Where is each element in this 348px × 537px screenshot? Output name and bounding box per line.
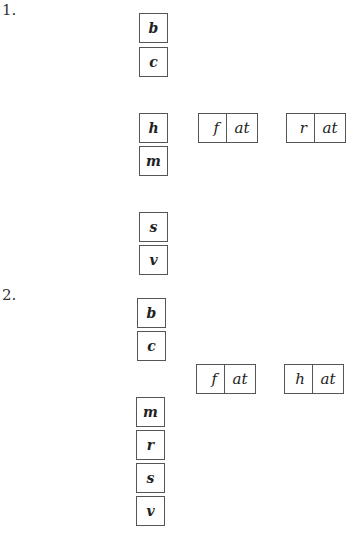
exercise-number: 2.: [2, 286, 16, 304]
letter-tile[interactable]: s: [139, 212, 168, 242]
word-onset: h: [295, 370, 305, 388]
letter-tile[interactable]: c: [137, 331, 166, 361]
letter-tile[interactable]: b: [137, 298, 166, 328]
word-box: h at: [284, 364, 344, 394]
letter-tile[interactable]: s: [136, 463, 165, 493]
word-rime: at: [313, 365, 343, 393]
letter-tile[interactable]: h: [139, 113, 168, 143]
letter-tile[interactable]: v: [136, 496, 165, 526]
letter-tile[interactable]: b: [139, 13, 168, 43]
word-onset: f: [213, 119, 219, 137]
word-onset-slot[interactable]: f: [197, 365, 225, 393]
word-rime: at: [315, 114, 345, 142]
word-rime: at: [225, 365, 255, 393]
word-onset-slot[interactable]: f: [199, 114, 227, 142]
letter-tile[interactable]: r: [136, 430, 165, 460]
word-onset-slot[interactable]: r: [287, 114, 315, 142]
word-onset-slot[interactable]: h: [285, 365, 313, 393]
letter-tile[interactable]: c: [139, 47, 168, 77]
word-box: f at: [196, 364, 256, 394]
letter-tile[interactable]: v: [139, 245, 168, 275]
word-box: f at: [198, 113, 258, 143]
exercise-number: 1.: [2, 1, 16, 19]
letter-tile[interactable]: m: [139, 146, 168, 176]
word-box: r at: [286, 113, 346, 143]
word-onset: r: [300, 119, 307, 137]
letter-tile[interactable]: m: [136, 397, 165, 427]
word-onset: f: [211, 370, 217, 388]
word-rime: at: [227, 114, 257, 142]
